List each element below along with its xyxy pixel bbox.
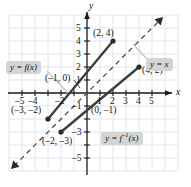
- x-axis-arrow: [165, 90, 172, 96]
- f-inverse-prefix: y = f: [105, 133, 122, 143]
- y-tick-label-3: 3: [76, 50, 81, 60]
- y-tick-label-2: 2: [76, 63, 81, 73]
- callout-leaders: [47, 44, 148, 93]
- axis-lines: [8, 12, 172, 175]
- x-tick-label-5: 5: [149, 97, 154, 107]
- callout-f-inverse: y = f–1(x): [101, 128, 143, 144]
- point-label--1-0: (–1, 0): [45, 74, 70, 84]
- y-tick-label--3: –3: [72, 128, 82, 138]
- callout-y-equals-x: y = x: [146, 54, 173, 70]
- point-label--3--2: (–3, –2): [11, 106, 41, 116]
- point-label--2--3: (–2, –3): [42, 137, 72, 147]
- point-label-2-4: (2, 4): [93, 29, 114, 39]
- graph-figure: –5 –4 –2 1 2 3 4 5 5 4 3 2 1 –1 –3 –5 x …: [0, 0, 191, 187]
- y-tick-label-5: 5: [76, 24, 81, 34]
- x-tick-label--2: –2: [55, 97, 65, 107]
- callout-f-of-x: y = f(x): [6, 57, 41, 73]
- y-tick-label--5: –5: [72, 154, 82, 164]
- callout-f-of-x-text: y = f(x): [6, 61, 41, 74]
- y-tick-label--1: –1: [72, 102, 82, 112]
- y-tick-label-1: 1: [76, 76, 81, 86]
- y-axis-label: y: [89, 2, 93, 12]
- point-label-0--1: (0, –1): [91, 106, 116, 116]
- callout-f-inverse-text: y = f–1(x): [101, 132, 143, 145]
- callout-y-equals-x-text: y = x: [146, 58, 173, 71]
- f-inverse-suffix: (x): [129, 133, 139, 143]
- x-tick-label-3: 3: [123, 97, 128, 107]
- x-axis-label: x: [176, 88, 180, 98]
- y-tick-label-4: 4: [76, 37, 81, 47]
- x-tick-label-4: 4: [136, 97, 141, 107]
